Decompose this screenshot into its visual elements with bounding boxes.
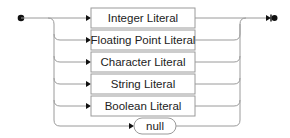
alt-label: Boolean Literal [105,100,182,112]
railroad-diagram: Integer Literal Floating Point Literal C… [0,0,290,138]
arrow-icon [86,59,91,65]
alt-label: Floating Point Literal [91,34,196,46]
alt-character-literal: Character Literal [91,52,195,72]
alt-label: String Literal [111,78,176,90]
alt-label: Character Literal [100,56,185,68]
arrow-icon [86,103,91,109]
arrow-icon [129,123,134,129]
alt-floating-point-literal: Floating Point Literal [91,30,196,50]
end-marker-icon [272,15,278,21]
end-arrow-icon [266,15,271,21]
alt-null-terminal: null [134,118,176,134]
alt-label: null [146,120,164,132]
arrow-icon [86,81,91,87]
alt-integer-literal: Integer Literal [91,8,195,28]
arrow-icon [86,15,91,21]
alt-boolean-literal: Boolean Literal [91,96,195,116]
alt-label: Integer Literal [108,12,178,24]
alt-string-literal: String Literal [91,74,195,94]
